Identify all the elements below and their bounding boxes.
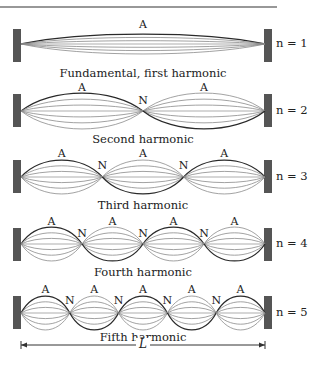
node-label: N (77, 228, 87, 239)
harmonic-number-label: n = 4 (276, 238, 308, 250)
string-displacement-curve (21, 171, 102, 177)
antinode-label: A (78, 82, 86, 93)
antinode-label: A (58, 148, 66, 159)
string-displacement-curve (119, 307, 168, 313)
string-envelope-curve (184, 160, 265, 177)
string-displacement-curve (167, 313, 216, 319)
antinode-label: A (220, 148, 228, 159)
antinode-label: A (48, 216, 56, 227)
node-label: N (138, 228, 148, 239)
left-wall-fixed-end (13, 29, 21, 62)
string-displacement-curve (21, 313, 70, 319)
string-displacement-curve (21, 307, 70, 313)
left-wall-fixed-end (13, 160, 21, 193)
string-displacement-curve (21, 177, 102, 194)
node-label: N (199, 228, 209, 239)
string-envelope-curve (216, 296, 265, 313)
string-displacement-curve (21, 41, 265, 44)
node-label: N (138, 95, 148, 106)
string-displacement-curve (21, 313, 70, 330)
string-displacement-curve (216, 313, 265, 330)
string-displacement-curve (216, 313, 265, 319)
right-wall-fixed-end (264, 94, 272, 127)
string-displacement-curve (70, 307, 119, 313)
antinode-label: A (200, 82, 208, 93)
string-displacement-curve (82, 238, 143, 244)
harmonic-caption: Fourth harmonic (94, 267, 192, 279)
string-displacement-curve (119, 313, 168, 330)
length-label: L (136, 338, 150, 350)
string-displacement-curve (21, 44, 265, 54)
string-displacement-curve (21, 111, 143, 117)
string-envelope-curve (21, 34, 265, 44)
dimension-left-arrowhead-icon (21, 343, 27, 348)
string-envelope-curve (21, 227, 82, 244)
standing-wave-harmonics-figure: AFundamental, first harmonicn = 1ANASeco… (0, 0, 313, 367)
left-wall-fixed-end (13, 94, 21, 127)
node-label: N (98, 160, 108, 171)
string-envelope-curve (204, 244, 265, 261)
antinode-label: A (139, 19, 147, 30)
string-displacement-curve (204, 227, 265, 244)
string-displacement-curve (21, 238, 82, 244)
string-displacement-curve (167, 307, 216, 313)
string-displacement-curve (102, 177, 183, 183)
node-label: N (211, 295, 221, 306)
string-displacement-curve (21, 244, 82, 261)
antinode-label: A (237, 284, 245, 295)
string-displacement-curve (143, 93, 265, 111)
antinode-label: A (41, 284, 49, 295)
antinode-label: A (231, 216, 239, 227)
string-displacement-curve (184, 171, 265, 177)
harmonic-number-label: n = 5 (276, 307, 308, 319)
string-displacement-curve (216, 307, 265, 313)
string-displacement-curve (184, 177, 265, 194)
string-displacement-curve (204, 244, 265, 250)
string-displacement-curve (70, 296, 119, 313)
string-envelope-curve (70, 313, 119, 330)
string-envelope-curve (143, 111, 265, 129)
string-displacement-curve (102, 160, 183, 177)
dimension-right-arrowhead-icon (259, 343, 265, 348)
antinode-label: A (109, 216, 117, 227)
antinode-label: A (170, 216, 178, 227)
string-displacement-curve (21, 44, 265, 47)
string-displacement-curve (70, 313, 119, 319)
node-label: N (163, 295, 173, 306)
string-displacement-curve (143, 105, 265, 111)
string-envelope-curve (102, 177, 183, 194)
antinode-label: A (90, 284, 98, 295)
string-envelope-curve (82, 244, 143, 261)
harmonic-number-label: n = 2 (276, 105, 308, 117)
string-displacement-curve (184, 177, 265, 183)
harmonics-diagram-svg (0, 0, 313, 367)
string-displacement-curve (21, 177, 102, 183)
string-envelope-curve (119, 296, 168, 313)
harmonic-number-label: n = 3 (276, 171, 308, 183)
string-displacement-curve (119, 313, 168, 319)
string-envelope-curve (21, 296, 70, 313)
harmonic-caption: Second harmonic (92, 134, 194, 146)
string-displacement-curve (21, 244, 82, 250)
string-displacement-curve (143, 238, 204, 244)
antinode-label: A (139, 284, 147, 295)
string-displacement-curve (82, 244, 143, 250)
harmonic-caption: Fundamental, first harmonic (59, 68, 226, 80)
string-envelope-curve (21, 160, 102, 177)
string-displacement-curve (167, 296, 216, 313)
string-displacement-curve (143, 111, 265, 117)
right-wall-fixed-end (264, 29, 272, 62)
string-envelope-curve (143, 227, 204, 244)
harmonic-number-label: n = 1 (276, 38, 308, 50)
node-label: N (114, 295, 124, 306)
string-displacement-curve (102, 171, 183, 177)
string-displacement-curve (21, 111, 143, 129)
string-envelope-curve (21, 93, 143, 111)
antinode-label: A (139, 148, 147, 159)
string-displacement-curve (204, 238, 265, 244)
string-envelope-curve (167, 313, 216, 330)
string-displacement-curve (21, 105, 143, 111)
string-displacement-curve (143, 244, 204, 250)
harmonic-caption: Third harmonic (98, 200, 188, 212)
left-wall-fixed-end (13, 296, 21, 329)
